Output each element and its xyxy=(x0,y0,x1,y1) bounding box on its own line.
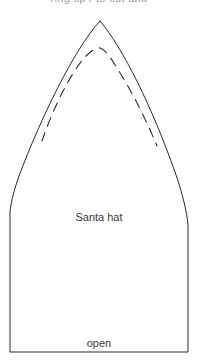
pattern-piece-name-label: Santa hat xyxy=(0,211,198,224)
pattern-sheet: ring tip / to cut and Santa hat open xyxy=(0,0,198,360)
santa-hat-pattern-drawing xyxy=(0,0,198,360)
dashed-seam-line-path xyxy=(42,48,157,146)
pattern-outline-path xyxy=(10,21,188,352)
bottom-edge-open-label: open xyxy=(0,337,198,350)
